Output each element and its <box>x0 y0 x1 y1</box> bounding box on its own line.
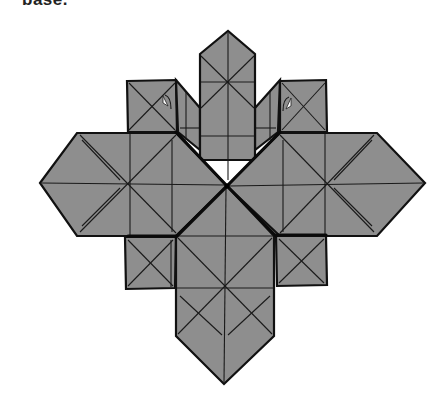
upper-left-square <box>127 80 177 132</box>
origami-base-diagram <box>0 0 447 410</box>
center-point <box>225 184 230 189</box>
lower-right-square <box>276 236 327 286</box>
top-pillar <box>200 31 255 180</box>
upper-right-square <box>280 80 327 132</box>
lower-left-square <box>125 237 176 289</box>
